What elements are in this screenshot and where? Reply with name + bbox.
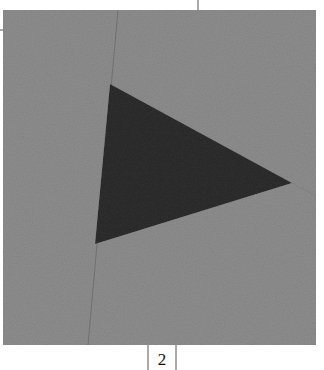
figure-diagram: [0, 0, 324, 370]
page-number-label: 2: [148, 350, 176, 370]
